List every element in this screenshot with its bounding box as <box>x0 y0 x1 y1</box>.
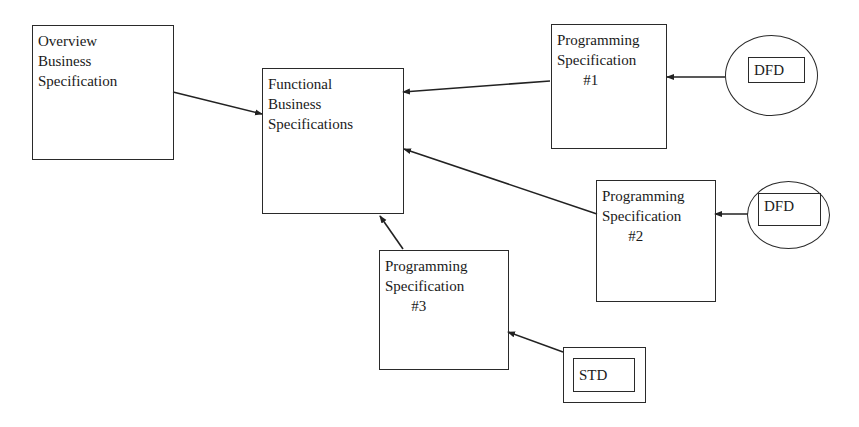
node-label: DFD <box>764 196 794 216</box>
node-programming-specification-2[interactable]: Programming Specification #2 <box>596 180 716 302</box>
node-label: STD <box>579 365 607 385</box>
node-label: DFD <box>754 60 784 80</box>
node-functional-business-specifications[interactable]: Functional Business Specifications <box>262 68 404 214</box>
node-overview-business-specification[interactable]: Overview Business Specification <box>32 25 174 160</box>
dfd-2-inner-box: DFD <box>758 193 821 226</box>
edge-prog2-to-functional <box>404 149 597 214</box>
node-label: Overview Business Specification <box>38 31 117 91</box>
edge-prog3-to-functional <box>380 216 403 249</box>
node-label: Programming Specification #2 <box>602 186 685 246</box>
node-label: Functional Business Specifications <box>268 74 353 134</box>
node-std-outer-box[interactable]: STD <box>563 347 646 403</box>
node-programming-specification-3[interactable]: Programming Specification #3 <box>379 250 509 370</box>
node-label: Programming Specification #1 <box>557 30 640 90</box>
node-label: Programming Specification #3 <box>385 256 468 316</box>
diagram-canvas: Overview Business Specification Function… <box>0 0 859 427</box>
dfd-1-inner-box: DFD <box>748 57 805 83</box>
edge-overview-to-functional <box>173 92 262 114</box>
node-dfd-2-circle[interactable]: DFD <box>747 181 830 249</box>
edge-std-to-prog3 <box>508 332 563 352</box>
std-inner-box: STD <box>573 358 635 392</box>
node-programming-specification-1[interactable]: Programming Specification #1 <box>551 24 667 149</box>
edge-prog1-to-functional <box>403 81 550 92</box>
node-dfd-1-circle[interactable]: DFD <box>725 35 818 116</box>
